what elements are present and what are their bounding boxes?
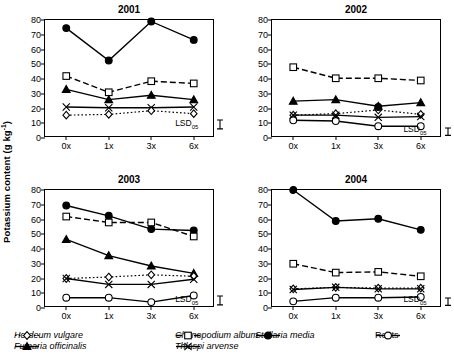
series-fumaria-officinalis xyxy=(289,96,424,110)
data-point xyxy=(332,218,339,225)
series-line xyxy=(66,217,194,237)
data-point xyxy=(105,111,112,119)
legend-item-roots: Roots xyxy=(375,330,399,340)
lsd-annotation: LSD05 xyxy=(175,294,198,306)
data-point xyxy=(148,226,155,233)
legend-item-hordeum-vulgare: Hordeum vulgare xyxy=(14,330,83,340)
lsd-subscript: 05 xyxy=(420,130,427,136)
series-fumaria-officinalis xyxy=(62,236,197,277)
legend-marker xyxy=(265,332,272,339)
data-point xyxy=(147,91,155,98)
lsd-label: LSD xyxy=(175,294,192,304)
lsd-bar-path xyxy=(217,296,223,305)
data-point xyxy=(417,226,424,233)
data-point xyxy=(190,110,197,118)
data-point xyxy=(375,104,382,111)
data-point xyxy=(148,18,155,25)
panel-title: 2004 xyxy=(271,174,441,185)
data-point xyxy=(105,294,112,301)
series-line xyxy=(66,89,194,99)
data-point xyxy=(148,271,155,279)
series-line xyxy=(293,297,421,301)
series-chenopodium-album xyxy=(63,73,197,96)
series-stellaria-media xyxy=(63,18,197,64)
data-point xyxy=(148,299,155,306)
chart-panel-2003: 2003010203040506070800x1x3x6xLSD05 xyxy=(44,189,214,307)
lsd-subscript: 05 xyxy=(192,123,199,129)
data-point xyxy=(417,77,424,84)
lsd-label: LSD xyxy=(403,124,420,134)
y-axis-label-tail: ) xyxy=(1,121,12,124)
plot-area: 010203040506070800x1x3x6xLSD05 xyxy=(271,189,441,307)
series-line xyxy=(66,107,194,108)
data-point xyxy=(290,260,297,267)
legend-marker xyxy=(385,332,392,339)
series-line xyxy=(293,264,421,277)
plot-area: 010203040506070800x1x3x6xLSD05 xyxy=(44,19,214,137)
lsd-annotation: LSD05 xyxy=(403,124,426,136)
lsd-bar-path xyxy=(445,298,451,305)
legend-marker xyxy=(24,332,31,340)
data-point xyxy=(190,37,197,44)
data-point xyxy=(148,78,155,85)
series-line xyxy=(293,190,421,230)
y-axis-label-text: Potassium content (g kg xyxy=(1,130,12,243)
data-point xyxy=(62,236,70,243)
series-thlaspi-arvense xyxy=(63,103,198,111)
series-stellaria-media xyxy=(63,202,197,234)
series-thlaspi-arvense xyxy=(63,275,198,288)
series-line xyxy=(66,21,194,60)
panel-title: 2003 xyxy=(44,174,214,185)
data-point xyxy=(332,75,339,82)
data-point xyxy=(105,273,112,281)
lsd-error-bar xyxy=(444,296,454,307)
series-line xyxy=(66,279,194,285)
series-line xyxy=(293,67,421,80)
data-point xyxy=(63,73,70,80)
chart-legend: Hordeum vulgareFumaria officinalisChenop… xyxy=(0,330,454,360)
series-line xyxy=(66,76,194,92)
data-point xyxy=(375,215,382,222)
series-line xyxy=(66,239,194,273)
data-point xyxy=(63,213,70,220)
lsd-subscript: 05 xyxy=(192,299,199,305)
data-point xyxy=(375,269,382,276)
data-point xyxy=(190,233,197,240)
data-point xyxy=(375,123,382,130)
series-line xyxy=(293,100,421,107)
series-line xyxy=(66,275,194,279)
legend-marker-circle-open-icon xyxy=(375,330,401,341)
legend-item-stellaria-media: Stellaria media xyxy=(255,330,315,340)
data-point xyxy=(190,80,197,87)
data-point xyxy=(375,294,382,301)
series-fumaria-officinalis xyxy=(62,85,197,102)
chart-panel-2004: 2004010203040506070800x1x3x6xLSD05 xyxy=(271,189,441,307)
data-point xyxy=(105,57,112,64)
chart-panel-2002: 2002010203040506070800x1x3x6xLSD05 xyxy=(271,19,441,137)
legend-item-fumaria-officinalis: Fumaria officinalis xyxy=(14,341,87,351)
data-point xyxy=(332,118,339,125)
data-point xyxy=(63,111,70,119)
data-point xyxy=(63,294,70,301)
panel-title: 2002 xyxy=(271,4,441,15)
data-point xyxy=(148,219,155,226)
data-point xyxy=(332,294,339,301)
data-point xyxy=(290,187,297,194)
lsd-error-bar xyxy=(444,126,454,137)
lsd-annotation: LSD05 xyxy=(175,118,198,130)
series-chenopodium-album xyxy=(290,64,424,84)
legend-marker-square-open-icon xyxy=(175,330,201,341)
series-line xyxy=(293,110,421,115)
lsd-label: LSD xyxy=(175,118,192,128)
y-axis-label: Potassium content (g kg-1) xyxy=(0,0,14,364)
data-point xyxy=(332,110,339,118)
series-line xyxy=(293,115,421,117)
data-point xyxy=(375,75,382,82)
series-chenopodium-album xyxy=(290,260,424,279)
plot-area: 010203040506070800x1x3x6xLSD05 xyxy=(44,189,214,307)
series-stellaria-media xyxy=(290,187,424,234)
panel-title: 2001 xyxy=(44,4,214,15)
figure-root: Potassium content (g kg-1) 2001010203040… xyxy=(0,0,454,364)
lsd-error-bar xyxy=(216,118,226,131)
series-chenopodium-album xyxy=(63,213,197,240)
